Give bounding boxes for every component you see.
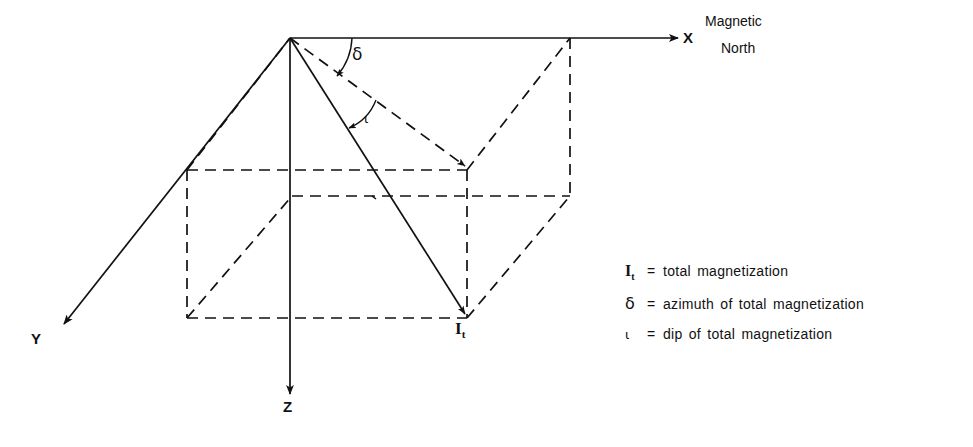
- box-edge-top-right-diagonal: [467, 38, 570, 170]
- legend-symbol-iota: ι: [625, 327, 647, 342]
- z-axis-label: Z: [283, 398, 292, 415]
- legend-text-2: dip of total magnetization: [663, 326, 832, 342]
- legend-symbol-delta: δ: [625, 294, 647, 313]
- legend-symbol-it: It: [625, 262, 647, 282]
- it-subscript: t: [462, 328, 466, 340]
- legend-text-1: azimuth of total magnetization: [663, 296, 864, 312]
- legend-equals-2: =: [647, 326, 663, 342]
- legend-equals-1: =: [647, 296, 663, 312]
- delta-angle-label: δ: [352, 44, 362, 64]
- box-edge-bottom-left-diagonal: [187, 196, 292, 318]
- box-edge-bottom-right-diagonal: [467, 196, 570, 318]
- legend-item-dip: ι = dip of total magnetization: [625, 326, 955, 358]
- iota-angle-arc: [349, 100, 376, 128]
- legend: It = total magnetization δ = azimuth of …: [625, 262, 955, 358]
- magnetic-north-line1: Magnetic: [705, 13, 762, 29]
- delta-angle-arc: [337, 38, 352, 76]
- legend-item-azimuth: δ = azimuth of total magnetization: [625, 294, 955, 326]
- diagram-page: X Y Z Magnetic North δ ι It It = total m…: [0, 0, 973, 447]
- legend-equals-0: =: [647, 263, 663, 279]
- x-axis-label: X: [683, 29, 693, 46]
- total-magnetization-label: It: [455, 319, 465, 340]
- iota-angle-label: ι: [364, 111, 368, 126]
- magnetic-north-line2: North: [705, 35, 762, 62]
- legend-text-0: total magnetization: [663, 263, 788, 279]
- magnetization-diagram: [0, 0, 973, 447]
- legend-item-total-magnetization: It = total magnetization: [625, 262, 955, 294]
- it-base: I: [455, 319, 462, 338]
- total-magnetization-vector: [290, 38, 465, 314]
- horizontal-projection-vector: [290, 38, 465, 166]
- magnetic-north-annotation: Magnetic North: [705, 8, 762, 61]
- y-axis-line: [64, 38, 290, 324]
- y-axis-label: Y: [31, 330, 41, 347]
